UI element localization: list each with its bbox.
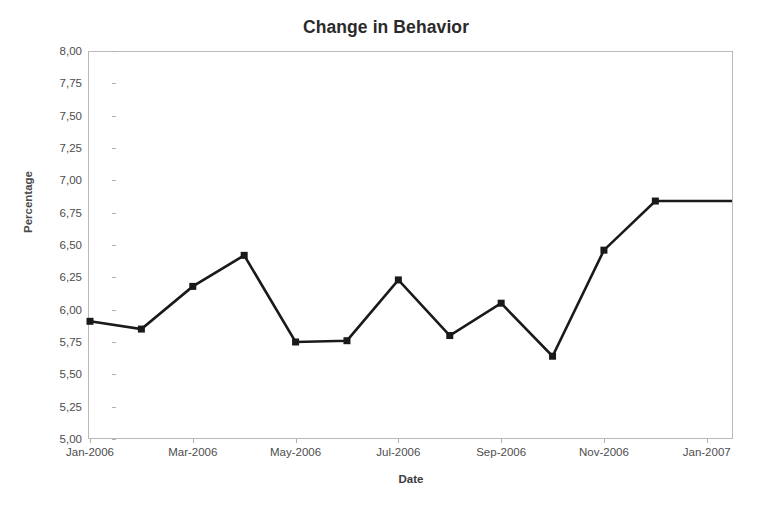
x-axis-tick-mark [296,439,297,443]
x-axis-tick-label: Jan-2006 [35,446,145,459]
x-axis-tick-mark [501,439,502,443]
x-axis-title: Date [88,473,734,485]
x-axis-tick-mark [398,439,399,443]
x-axis-tick-mark [90,439,91,443]
x-axis-tick-label: Mar-2006 [138,446,248,459]
x-axis-tick-mark [193,439,194,443]
x-axis-tick-label: May-2006 [241,446,351,459]
x-axis-tick-label: Jul-2006 [343,446,453,459]
x-axis-tick-labels: Jan-2006Mar-2006May-2006Jul-2006Sep-2006… [0,0,772,505]
x-axis-tick-mark [707,439,708,443]
x-axis-tick-label: Jan-2007 [652,446,762,459]
x-axis-tick-label: Sep-2006 [446,446,556,459]
x-axis-tick-mark [604,439,605,443]
chart-container: Change in Behavior Percentage 5,005,255,… [0,0,772,505]
x-axis-tick-label: Nov-2006 [549,446,659,459]
